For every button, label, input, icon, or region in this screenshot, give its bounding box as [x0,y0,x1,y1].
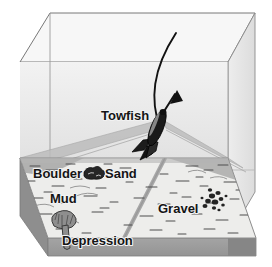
label-depression: Depression [62,233,133,248]
block-diagram-scene: Towfish Boulder Sand Mud Gravel Depressi… [0,0,272,267]
seafloor-shadow-back [20,158,228,163]
box-top-face [20,13,255,62]
towfish-nose [160,109,167,115]
label-boulder: Boulder [33,166,82,181]
label-mud: Mud [50,191,77,206]
label-gravel: Gravel [158,201,198,216]
label-towfish: Towfish [101,108,149,123]
sonar-survey-diagram: Towfish Boulder Sand Mud Gravel Depressi… [0,0,272,267]
label-sand: Sand [105,166,137,181]
seafloor-right-face [228,238,256,256]
